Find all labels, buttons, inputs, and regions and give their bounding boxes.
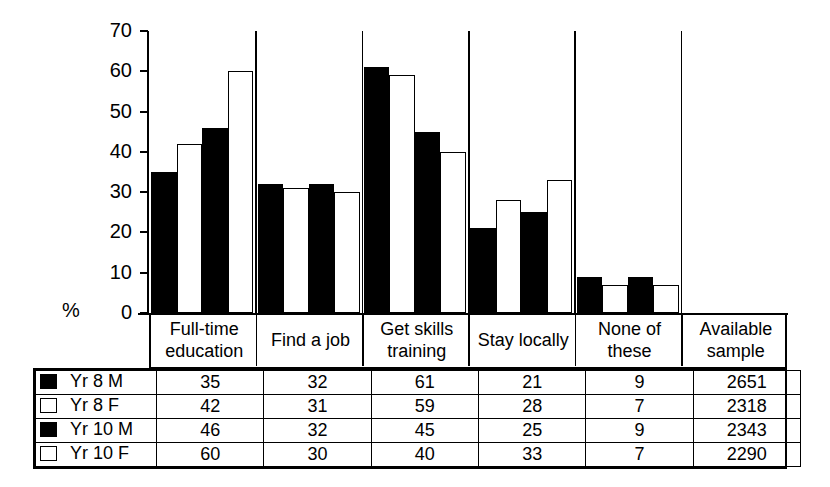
table-cell: 2290 [693,443,800,467]
category-header-cell: None of these [576,314,682,366]
bar [177,144,203,313]
y-tick-20 [140,231,148,233]
series-label: Yr 8 F [70,395,119,416]
category-header-cell: Availablesample [683,314,789,366]
y-tick-label-0: 0 [88,302,132,322]
bar [202,128,228,313]
y-tick-label-30: 30 [88,181,132,201]
bar [364,67,390,313]
category-header-cell: Get skillstraining [364,314,470,366]
bar [440,152,466,313]
category-header-line: training [387,340,446,362]
bar [258,184,284,313]
table-cell: 35 [157,371,264,395]
bar [389,75,415,313]
table-cell: 9 [586,371,693,395]
category-header-line: Get skills [380,318,453,340]
category-header-line: education [165,340,243,362]
group-separator [362,31,364,313]
y-tick-label-10: 10 [88,262,132,282]
y-tick-70 [140,30,148,32]
bar [228,71,254,313]
bar [309,184,335,313]
bar [628,277,654,313]
legend-key: Yr 10 F [40,443,129,464]
y-tick-50 [140,111,148,113]
table-cell: 42 [157,395,264,419]
bar [547,180,573,313]
y-tick-label-20: 20 [88,221,132,241]
table-row: Yr 8 F4231592872318 [36,395,801,419]
legend-key-cell: Yr 10 M [36,419,157,443]
category-header-cell: Find a job [257,314,363,366]
y-tick-30 [140,191,148,193]
bar [334,192,360,313]
y-tick-60 [140,70,148,72]
table-row: Yr 8 M3532612192651 [36,371,801,395]
table-cell: 30 [264,443,371,467]
bar [577,277,603,313]
y-tick-label-60: 60 [88,60,132,80]
category-header-line: Available [699,318,772,340]
bar [521,212,547,313]
swatch-hollow-icon [40,446,57,461]
category-header-line: Stay locally [478,329,569,351]
swatch-hollow-icon [40,398,57,413]
y-axis-unit-label: % [62,300,80,320]
table-cell: 25 [478,419,585,443]
category-header-line: Full-time [170,318,239,340]
group-separator [574,31,576,313]
category-header-line: Find a job [271,329,350,351]
table-cell: 7 [586,395,693,419]
category-header-cell: Full-timeeducation [151,314,257,366]
group-separator [468,31,470,313]
bar [151,172,177,313]
y-tick-40 [140,151,148,153]
swatch-filled-icon [40,422,57,437]
table-cell: 60 [157,443,264,467]
data-table: Yr 8 M3532612192651Yr 8 F4231592872318Yr… [33,368,787,469]
y-tick-10 [140,272,148,274]
table-cell: 2318 [693,395,800,419]
y-tick-label-40: 40 [88,141,132,161]
category-header-cell: Stay locally [470,314,576,366]
legend-key-cell: Yr 8 F [36,395,157,419]
table-cell: 28 [478,395,585,419]
bar [415,132,441,313]
bar [602,285,628,313]
table-cell: 46 [157,419,264,443]
table-cell: 45 [371,419,478,443]
group-separator [255,31,257,313]
y-tick-label-50: 50 [88,101,132,121]
y-tick-label-70: 70 [88,20,132,40]
bar [653,285,679,313]
legend-key: Yr 8 M [40,371,123,392]
table-row: Yr 10 F6030403372290 [36,443,801,467]
table-row: Yr 10 M4632452592343 [36,419,801,443]
table-cell: 32 [264,419,371,443]
table-cell: 9 [586,419,693,443]
category-header-row: Full-timeeducationFind a jobGet skillstr… [149,314,787,368]
bar [470,228,496,313]
bar [496,200,522,313]
legend-key: Yr 10 M [40,419,133,440]
table-cell: 2343 [693,419,800,443]
bar [283,188,309,313]
plot-area [149,31,787,313]
table-cell: 61 [371,371,478,395]
series-label: Yr 8 M [70,371,123,392]
table-cell: 40 [371,443,478,467]
legend-key-cell: Yr 10 F [36,443,157,467]
swatch-filled-icon [40,374,57,389]
table-cell: 33 [478,443,585,467]
series-label: Yr 10 M [70,419,133,440]
category-header-line: None of these [576,318,682,362]
category-header-line: sample [707,340,765,362]
legend-key-cell: Yr 8 M [36,371,157,395]
legend-key: Yr 8 F [40,395,119,416]
series-label: Yr 10 F [70,443,129,464]
table-cell: 7 [586,443,693,467]
group-separator [681,31,683,313]
table-cell: 32 [264,371,371,395]
bar-chart-figure: 706050403020100 % Full-timeeducationFind… [0,0,830,487]
